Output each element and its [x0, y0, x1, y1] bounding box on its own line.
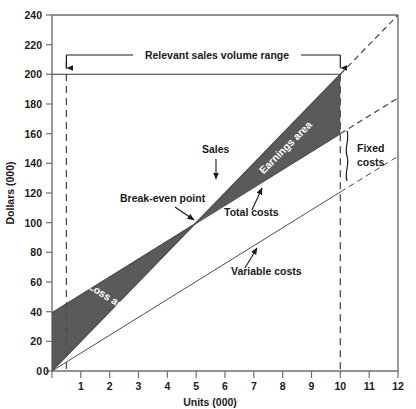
- x-tick-label: 7: [251, 380, 257, 392]
- x-axis-ticks: [52, 371, 398, 378]
- y-tick-label: 240: [24, 9, 42, 21]
- sales-line-dashed: [340, 15, 398, 74]
- x-tick-label: 4: [164, 380, 170, 392]
- y-tick-label: 60: [30, 276, 42, 288]
- x-axis-title: Units (000): [183, 396, 237, 408]
- sales-label: Sales: [202, 143, 230, 155]
- break-even-chart: 240 220 200 180 160 140 120 100 80 60 40…: [0, 0, 416, 409]
- y-tick-label: 200: [24, 68, 42, 80]
- fixed-costs-annotation: Fixed costs: [346, 131, 384, 181]
- x-axis-tick-labels: 0 1 2 3 4 5 6 7 8 9 10 11 12: [43, 365, 404, 392]
- sales-callout: Sales: [202, 143, 230, 179]
- x-tick-label: 6: [222, 380, 228, 392]
- x-tick-label: 8: [280, 380, 286, 392]
- y-tick-label: 140: [24, 157, 42, 169]
- fixed-costs-label-line1: Fixed: [357, 142, 384, 154]
- fixed-costs-brace-icon: [346, 131, 348, 181]
- x-tick-label: 11: [364, 380, 375, 392]
- chart-canvas: 240 220 200 180 160 140 120 100 80 60 40…: [0, 0, 416, 409]
- variable-costs-callout: Variable costs: [231, 248, 302, 277]
- y-axis-tick-labels: 240 220 200 180 160 140 120 100 80 60 40…: [24, 9, 42, 377]
- y-axis-ticks: [46, 15, 52, 371]
- fixed-costs-label-line2: costs: [357, 156, 385, 168]
- y-tick-label: 120: [24, 187, 42, 199]
- x-tick-label: 3: [136, 380, 142, 392]
- x-tick-label: 1: [78, 380, 84, 392]
- x-tick-label: 9: [309, 380, 315, 392]
- y-tick-label: 40: [30, 306, 42, 318]
- x-tick-label: 0: [43, 365, 49, 377]
- variable-costs-label: Variable costs: [231, 265, 302, 277]
- y-tick-label: 100: [24, 217, 42, 229]
- y-axis-title: Dollars (000): [4, 161, 16, 224]
- y-tick-label: 0: [36, 365, 42, 377]
- total-costs-line-dashed: [340, 98, 398, 134]
- x-tick-label: 10: [334, 380, 346, 392]
- x-tick-label: 5: [193, 380, 199, 392]
- y-tick-label: 20: [30, 335, 42, 347]
- break-even-callout: Break-even point: [120, 192, 206, 220]
- relevant-range-bracket: Relevant sales volume range: [66, 49, 340, 68]
- y-tick-label: 180: [24, 98, 42, 110]
- x-tick-label: 2: [107, 380, 113, 392]
- relevant-range-label: Relevant sales volume range: [145, 49, 289, 61]
- total-costs-label: Total costs: [224, 206, 279, 218]
- data-lines: [52, 15, 398, 371]
- break-even-point-label: Break-even point: [120, 192, 206, 204]
- y-tick-label: 80: [30, 246, 42, 258]
- y-tick-label: 160: [24, 128, 42, 140]
- x-tick-label: 12: [392, 380, 404, 392]
- y-tick-label: 220: [24, 39, 42, 51]
